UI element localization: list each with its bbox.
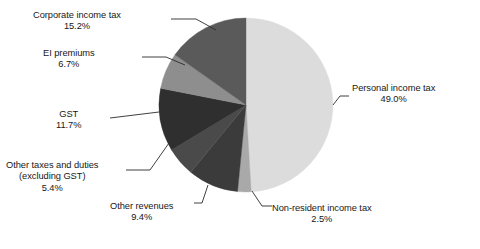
leader-line-personal: [333, 96, 349, 105]
slice-label-ei-premiums-value: 6.7%: [43, 59, 95, 70]
slice-label-non-resident-name: Non-resident income tax: [272, 203, 372, 214]
slice-label-other-taxes-value: 5.4%: [6, 183, 98, 194]
slice-label-gst-name: GST: [56, 109, 81, 120]
leader-line-gst: [110, 112, 159, 118]
slice-label-non-resident-value: 2.5%: [272, 214, 372, 225]
slice-label-other-taxes-name: Other taxes and duties: [6, 160, 98, 171]
slice-label-personal: Personal income tax 49.0%: [352, 83, 435, 106]
slice-label-corporate-value: 15.2%: [33, 21, 121, 32]
leader-line-othertaxes: [126, 143, 169, 170]
pie-slice-personal[interactable]: [246, 18, 333, 192]
slice-label-ei-premiums: EI premiums 6.7%: [43, 48, 95, 71]
slice-label-corporate-name: Corporate income tax: [33, 10, 121, 21]
slice-label-corporate: Corporate income tax 15.2%: [33, 10, 121, 33]
slice-label-other-taxes: Other taxes and duties (excluding GST) 5…: [6, 160, 98, 194]
slice-label-non-resident: Non-resident income tax 2.5%: [272, 203, 372, 226]
slice-label-gst-value: 11.7%: [56, 120, 81, 131]
slice-label-gst: GST 11.7%: [56, 109, 81, 132]
slice-label-other-revenues: Other revenues 9.4%: [110, 201, 173, 224]
slice-label-personal-name: Personal income tax: [352, 83, 435, 94]
leader-line-nonresident: [252, 191, 272, 206]
slice-label-ei-premiums-name: EI premiums: [43, 48, 95, 59]
slice-label-other-taxes-name-line2: (excluding GST): [6, 171, 98, 182]
leader-line-otherrevenues: [194, 185, 208, 203]
slice-label-other-revenues-name: Other revenues: [110, 201, 173, 212]
slice-label-personal-value: 49.0%: [352, 94, 435, 105]
pie-chart-figure: Corporate income tax 15.2% EI premiums 6…: [0, 0, 480, 249]
pie-slices-group: [159, 18, 333, 192]
slice-label-other-revenues-value: 9.4%: [110, 212, 173, 223]
